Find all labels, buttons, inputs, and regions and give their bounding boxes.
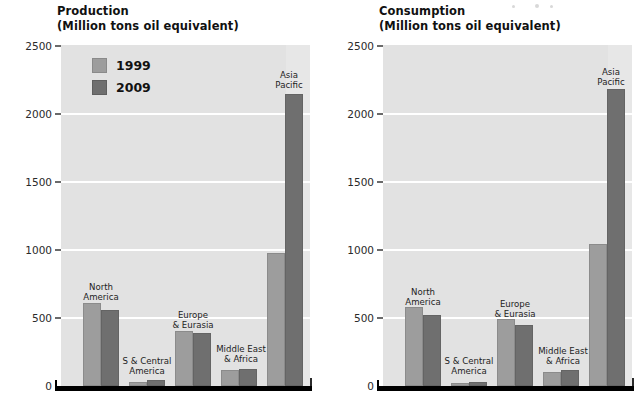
y-tick-label: 1500 — [347, 176, 374, 188]
plot-area-production: North America S & Central America Europe… — [61, 45, 310, 386]
chart-title-line2: (Million tons oil equivalent) — [379, 19, 561, 34]
category-label-middle-east-africa: Middle East & Africa — [538, 347, 588, 366]
chart-panel-production: Production (Million tons oil equivalent)… — [0, 0, 322, 411]
bar-production-1999-asia-pacific — [267, 253, 285, 386]
y-tick-label: 2500 — [25, 40, 52, 52]
y-tick-label: 2000 — [25, 108, 52, 120]
bar-consumption-2009-north-america — [423, 315, 441, 386]
y-tick-label: 1000 — [25, 244, 52, 256]
bar-group-container-consumption — [383, 45, 632, 386]
bar-production-2009-middle-east-africa — [239, 369, 257, 386]
bar-consumption-2009-middle-east-africa — [561, 370, 579, 386]
bar-consumption-2009-asia-pacific — [607, 89, 625, 386]
legend-label-2009: 2009 — [116, 80, 151, 95]
chart-figure: Production (Million tons oil equivalent)… — [0, 0, 644, 411]
bar-production-2009-europe-eurasia — [193, 333, 211, 386]
x-axis-baseline — [377, 386, 634, 391]
chart-title-production: Production (Million tons oil equivalent) — [57, 4, 239, 33]
y-tick-label: 0 — [45, 380, 52, 392]
y-tick-label: 2000 — [347, 108, 374, 120]
y-axis-labels-consumption: 2500 2000 1500 1000 500 0 — [322, 0, 374, 411]
bar-production-2009-asia-pacific — [285, 94, 303, 386]
category-label-asia-pacific: Asia Pacific — [597, 68, 624, 87]
y-axis-labels-production: 2500 2000 1500 1000 500 0 — [0, 0, 52, 411]
legend-item-2009: 2009 — [92, 79, 151, 95]
y-tick-label: 0 — [367, 380, 374, 392]
chart-title-line1: Consumption — [379, 4, 561, 19]
bar-production-1999-north-america — [83, 303, 101, 386]
chart-legend: 1999 2009 — [92, 57, 151, 101]
bar-consumption-2009-europe-eurasia — [515, 325, 533, 386]
y-tick-label: 2500 — [347, 40, 374, 52]
legend-label-1999: 1999 — [116, 58, 151, 73]
chart-title-line1: Production — [57, 4, 239, 19]
category-label-line: America — [445, 367, 494, 377]
bar-consumption-1999-asia-pacific — [589, 244, 607, 386]
category-label-line: & Eurasia — [172, 321, 213, 331]
bar-production-1999-middle-east-africa — [221, 370, 239, 386]
bar-consumption-1999-middle-east-africa — [543, 372, 561, 386]
legend-swatch-icon-1999 — [92, 58, 107, 73]
category-label-s-central-america: S & Central America — [445, 357, 494, 376]
category-label-line: America — [83, 293, 118, 303]
bar-production-1999-europe-eurasia — [175, 331, 193, 386]
bar-consumption-1999-north-america — [405, 307, 423, 386]
category-label-line: America — [405, 298, 440, 308]
category-label-asia-pacific: Asia Pacific — [275, 71, 302, 90]
y-tick-label: 1500 — [25, 176, 52, 188]
bar-consumption-1999-europe-eurasia — [497, 319, 515, 386]
chart-panel-consumption: Consumption (Million tons oil equivalent… — [322, 0, 644, 411]
category-label-line: & Eurasia — [494, 310, 535, 320]
plot-area-consumption: North America S & Central America Europe… — [383, 45, 632, 386]
category-label-line: America — [123, 367, 172, 377]
y-tick-label: 1000 — [347, 244, 374, 256]
category-label-europe-eurasia: Europe & Eurasia — [172, 311, 213, 330]
y-tick-label: 500 — [354, 312, 374, 324]
chart-title-consumption: Consumption (Million tons oil equivalent… — [379, 4, 561, 33]
chart-title-line2: (Million tons oil equivalent) — [57, 19, 239, 34]
category-label-line: Pacific — [597, 78, 624, 88]
legend-swatch-icon-2009 — [92, 80, 107, 95]
x-axis-baseline — [55, 386, 312, 391]
category-label-middle-east-africa: Middle East & Africa — [216, 345, 266, 364]
category-label-line: & Africa — [538, 357, 588, 367]
y-tick-label: 500 — [32, 312, 52, 324]
category-label-line: & Africa — [216, 355, 266, 365]
category-label-s-central-america: S & Central America — [123, 357, 172, 376]
category-label-north-america: North America — [405, 288, 440, 307]
bar-production-2009-north-america — [101, 310, 119, 386]
category-label-north-america: North America — [83, 283, 118, 302]
legend-item-1999: 1999 — [92, 57, 151, 73]
category-label-line: Pacific — [275, 81, 302, 91]
category-label-europe-eurasia: Europe & Eurasia — [494, 300, 535, 319]
